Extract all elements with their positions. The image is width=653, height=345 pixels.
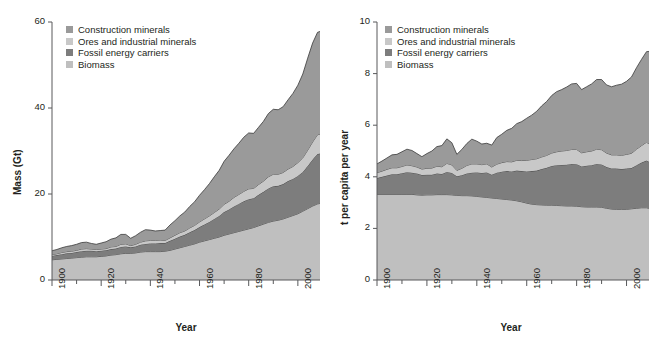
legend-item[interactable]: Ores and industrial minerals	[66, 36, 196, 48]
x-tick-label: 2000	[631, 268, 642, 289]
legend-item-label: Biomass	[78, 59, 114, 71]
x-tick-label: 1960	[204, 268, 215, 289]
legend-swatch-biomass	[385, 61, 392, 68]
y-tick-label: 20	[12, 187, 45, 198]
y-tick-label: 0	[337, 273, 370, 284]
legend-swatch-biomass	[66, 61, 73, 68]
legend-mass: Construction minerals Ores and industria…	[66, 24, 196, 70]
y-tick-label: 60	[12, 15, 45, 26]
legend-item[interactable]: Construction minerals	[385, 24, 515, 36]
x-tick-label: 1960	[531, 268, 542, 289]
legend-item-label: Construction minerals	[397, 24, 489, 36]
y-tick-label: 40	[12, 101, 45, 112]
y-tick-label: 4	[337, 170, 370, 181]
legend-item-label: Construction minerals	[78, 24, 170, 36]
y-tick-label: 2	[337, 221, 370, 232]
x-tick-label: 1940	[154, 268, 165, 289]
legend-item-label: Biomass	[397, 59, 433, 71]
x-tick-label: 1920	[431, 268, 442, 289]
legend-item[interactable]: Ores and industrial minerals	[385, 36, 515, 48]
legend-swatch-construction-minerals	[385, 26, 392, 33]
y-tick-label: 8	[337, 67, 370, 78]
figure-container: Construction minerals Ores and industria…	[0, 0, 653, 345]
legend-swatch-ores	[385, 38, 392, 45]
x-tick-label: 1980	[581, 268, 592, 289]
legend-item[interactable]: Construction minerals	[66, 24, 196, 36]
legend-item[interactable]: Fossil energy carriers	[66, 47, 196, 59]
legend-item-label: Fossil energy carriers	[397, 47, 488, 59]
x-tick-label: 2000	[302, 268, 313, 289]
legend-item[interactable]: Biomass	[66, 59, 196, 71]
x-axis-title: Year	[377, 322, 645, 333]
legend-swatch-fossil	[385, 49, 392, 56]
y-tick-label: 0	[12, 273, 45, 284]
y-tick-label: 10	[337, 15, 370, 26]
legend-per-capita: Construction minerals Ores and industria…	[385, 24, 515, 70]
legend-swatch-construction-minerals	[66, 26, 73, 33]
x-tick-label: 1940	[481, 268, 492, 289]
chart-panel-per-capita: Construction minerals Ores and industria…	[327, 0, 653, 345]
legend-item-label: Fossil energy carriers	[78, 47, 169, 59]
legend-swatch-ores	[66, 38, 73, 45]
legend-item-label: Ores and industrial minerals	[397, 36, 515, 48]
legend-item[interactable]: Fossil energy carriers	[385, 47, 515, 59]
x-tick-label: 1920	[105, 268, 116, 289]
legend-item[interactable]: Biomass	[385, 59, 515, 71]
legend-swatch-fossil	[66, 49, 73, 56]
y-tick-label: 6	[337, 118, 370, 129]
legend-item-label: Ores and industrial minerals	[78, 36, 196, 48]
x-tick-label: 1900	[56, 268, 67, 289]
x-tick-label: 1980	[253, 268, 264, 289]
x-tick-label: 1900	[381, 268, 392, 289]
chart-panel-mass: Construction minerals Ores and industria…	[0, 0, 326, 345]
x-axis-title: Year	[52, 322, 320, 333]
